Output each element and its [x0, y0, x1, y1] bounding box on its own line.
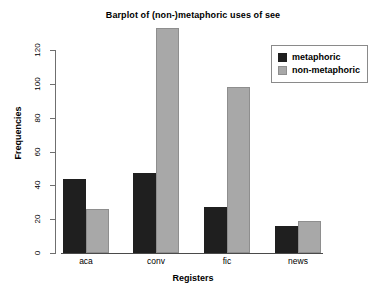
legend-item-metaphoric: metaphoric: [278, 51, 360, 64]
y-tick-mark: [50, 253, 55, 254]
y-tick-label: 0: [30, 245, 46, 261]
y-tick-mark: [50, 185, 55, 186]
x-tick-label-conv: conv: [131, 256, 181, 266]
y-tick-label: 40: [30, 177, 46, 193]
legend-item-non-metaphoric: non-metaphoric: [278, 64, 360, 77]
x-axis-title: Registers: [0, 273, 386, 283]
bar-fic-non-metaphoric: [227, 87, 250, 253]
bar-fic-metaphoric: [204, 207, 227, 253]
x-axis-line: [61, 253, 323, 254]
x-tick-label-news: news: [273, 256, 323, 266]
chart-title: Barplot of (non-)metaphoric uses of see: [0, 10, 386, 20]
bar-conv-non-metaphoric: [156, 28, 179, 253]
y-tick-label: 20: [30, 211, 46, 227]
y-tick-label: 80: [30, 110, 46, 126]
barplot-figure: Barplot of (non-)metaphoric uses of see …: [0, 0, 386, 294]
x-tick-label-fic: fic: [202, 256, 252, 266]
y-axis-title: Frequencies: [13, 93, 23, 173]
legend-label: metaphoric: [292, 53, 341, 62]
bar-news-non-metaphoric: [298, 221, 321, 253]
legend-swatch-icon: [278, 53, 287, 62]
bar-conv-metaphoric: [133, 173, 156, 253]
y-tick-label: 60: [30, 144, 46, 160]
legend: metaphoricnon-metaphoric: [271, 45, 368, 83]
bar-news-metaphoric: [275, 226, 298, 253]
y-tick-label: 120: [30, 42, 46, 58]
y-tick-mark: [50, 50, 55, 51]
y-tick-mark: [50, 118, 55, 119]
legend-swatch-icon: [278, 66, 287, 75]
y-tick-mark: [50, 84, 55, 85]
bar-aca-non-metaphoric: [86, 209, 109, 253]
x-tick-label-aca: aca: [61, 256, 111, 266]
bar-aca-metaphoric: [63, 179, 86, 253]
y-tick-mark: [50, 219, 55, 220]
y-tick-mark: [50, 152, 55, 153]
legend-label: non-metaphoric: [292, 66, 360, 75]
y-tick-label: 100: [30, 76, 46, 92]
